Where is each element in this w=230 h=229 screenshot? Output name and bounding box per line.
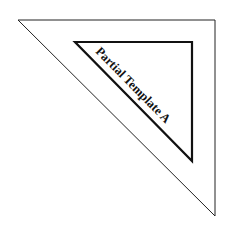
inner-triangle xyxy=(75,42,192,161)
template-diagram: Partial Template A xyxy=(0,0,230,229)
outer-triangle xyxy=(18,20,215,216)
template-label: Partial Template A xyxy=(93,44,174,126)
